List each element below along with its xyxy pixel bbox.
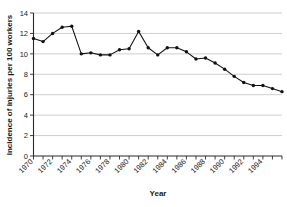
data-point-1990 (223, 67, 226, 70)
x-tick-label-1992: 1992 (227, 157, 245, 175)
x-axis-title: Year (150, 189, 167, 198)
data-point-1982 (146, 46, 149, 49)
x-tick-label-1978: 1978 (93, 157, 111, 175)
data-point-1980 (127, 47, 130, 50)
data-point-1996 (280, 90, 283, 93)
x-tick-label-1982: 1982 (131, 157, 149, 175)
plot-frame (34, 13, 283, 156)
data-point-1985 (175, 46, 178, 49)
data-point-1977 (99, 53, 102, 56)
data-point-1975 (80, 52, 83, 55)
y-tick-label-4: 4 (24, 111, 28, 120)
x-tick-label-1986: 1986 (170, 157, 188, 175)
y-tick-labels-group: 02468101214 (20, 9, 28, 161)
y-tick-label-6: 6 (24, 90, 28, 99)
data-point-1973 (60, 26, 63, 29)
data-point-1972 (51, 32, 54, 35)
data-point-1981 (137, 30, 140, 33)
x-tick-label-1974: 1974 (55, 157, 73, 175)
x-tick-label-1984: 1984 (151, 157, 169, 175)
y-tick-label-8: 8 (24, 70, 28, 79)
y-tick-label-12: 12 (20, 29, 28, 38)
data-point-1987 (194, 57, 197, 60)
data-point-1978 (108, 53, 111, 56)
data-point-1991 (233, 75, 236, 78)
chart-figure: 1970197219741976197819801982198419861988… (0, 0, 287, 207)
y-tick-label-14: 14 (20, 9, 28, 18)
data-point-1989 (213, 61, 216, 64)
y-tick-label-0: 0 (24, 152, 28, 161)
data-point-1988 (204, 56, 207, 59)
data-point-1979 (118, 48, 121, 51)
data-point-1984 (166, 46, 169, 49)
data-point-1995 (271, 87, 274, 90)
data-point-1992 (242, 81, 245, 84)
x-tick-label-1994: 1994 (246, 157, 264, 175)
data-point-1983 (156, 53, 159, 56)
data-point-1976 (89, 51, 92, 54)
x-tick-label-1976: 1976 (74, 157, 92, 175)
data-point-1970 (32, 37, 35, 40)
gridlines-group (34, 13, 283, 136)
data-point-1993 (252, 84, 255, 87)
x-tick-labels-group: 1970197219741976197819801982198419861988… (17, 157, 265, 175)
x-tick-label-1980: 1980 (112, 157, 130, 175)
x-tick-label-1988: 1988 (189, 157, 207, 175)
y-tick-label-2: 2 (24, 131, 28, 140)
x-tick-label-1990: 1990 (208, 157, 226, 175)
data-point-1994 (261, 84, 264, 87)
line-chart: 1970197219741976197819801982198419861988… (0, 0, 287, 207)
data-point-1971 (41, 40, 44, 43)
data-point-1974 (70, 25, 73, 28)
x-tick-label-1972: 1972 (36, 157, 54, 175)
y-axis-title: Incidence of injuries per 100 workers (5, 14, 14, 155)
y-tick-label-10: 10 (20, 50, 28, 59)
data-series-group (32, 25, 284, 94)
data-point-1986 (185, 50, 188, 53)
